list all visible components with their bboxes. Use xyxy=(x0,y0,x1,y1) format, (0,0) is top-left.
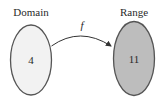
function-mapping-diagram: Domain Range 4 11 f xyxy=(0,0,163,105)
domain-value: 4 xyxy=(28,54,34,66)
mapping-arrow xyxy=(52,36,112,46)
domain-title: Domain xyxy=(13,6,49,18)
range-value: 11 xyxy=(129,53,140,65)
range-title: Range xyxy=(120,6,148,18)
function-label: f xyxy=(80,19,85,31)
